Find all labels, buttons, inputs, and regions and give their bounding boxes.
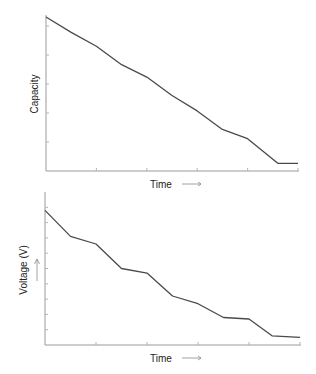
x-axis-label: Time (150, 179, 172, 190)
y-arrow-icon (35, 259, 40, 281)
x-axis-label: Time (150, 353, 172, 364)
voltage-chart: Voltage (V) Time (18, 192, 301, 364)
capacity-line (46, 17, 298, 163)
voltage-line (45, 210, 300, 337)
figure: Capacity Time Voltage (V) Time (0, 0, 316, 374)
y-axis-label: Voltage (V) (18, 245, 29, 294)
capacity-chart: Capacity Time (29, 0, 299, 190)
x-arrow-icon (182, 356, 201, 360)
x-arrow-icon (182, 182, 201, 186)
y-axis-label: Capacity (29, 75, 40, 114)
